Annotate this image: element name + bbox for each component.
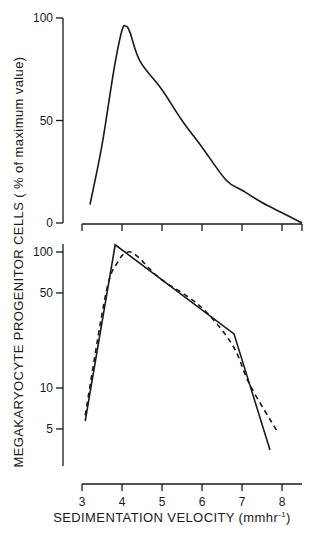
bottom-x-tick-label: 3: [79, 495, 86, 509]
chart-svg: 050100 51050100345678: [0, 0, 320, 541]
bottom-x-tick-label: 4: [119, 495, 126, 509]
bottom-x-tick-label: 6: [199, 495, 206, 509]
x-axis-label: SEDIMENTATION VELOCITY (mmhr-1): [0, 510, 320, 525]
bottom-y-tick-label: 5: [46, 422, 53, 436]
x-axis-label-text: SEDIMENTATION VELOCITY (mmhr: [53, 510, 278, 525]
bottom-y-tick-label: 10: [40, 381, 54, 395]
y-axis-label-container: MEGAKARYOCYTE PROGENITOR CELLS ( % of ma…: [6, 0, 30, 541]
bottom-x-tick-label: 7: [239, 495, 246, 509]
bottom-panel: 51050100345678: [33, 244, 302, 509]
y-axis-label: MEGAKARYOCYTE PROGENITOR CELLS ( % of ma…: [11, 56, 26, 467]
x-axis-label-exponent: -1: [278, 510, 286, 519]
x-axis-label-close: ): [286, 510, 291, 525]
top-y-tick-label: 50: [40, 114, 54, 128]
top-panel: 050100: [33, 11, 302, 231]
top-y-tick-label: 100: [33, 11, 53, 25]
top-y-tick-label: 0: [46, 216, 53, 230]
bottom-series-dashed-line: [85, 252, 278, 433]
figure: 050100 51050100345678 MEGAKARYOCYTE PROG…: [0, 0, 320, 541]
bottom-series-solid-line: [85, 245, 270, 450]
bottom-x-tick-label: 5: [159, 495, 166, 509]
top-series-line: [90, 25, 302, 223]
bottom-y-tick-label: 100: [33, 245, 53, 259]
bottom-y-tick-label: 50: [40, 286, 54, 300]
bottom-x-tick-label: 8: [279, 495, 286, 509]
